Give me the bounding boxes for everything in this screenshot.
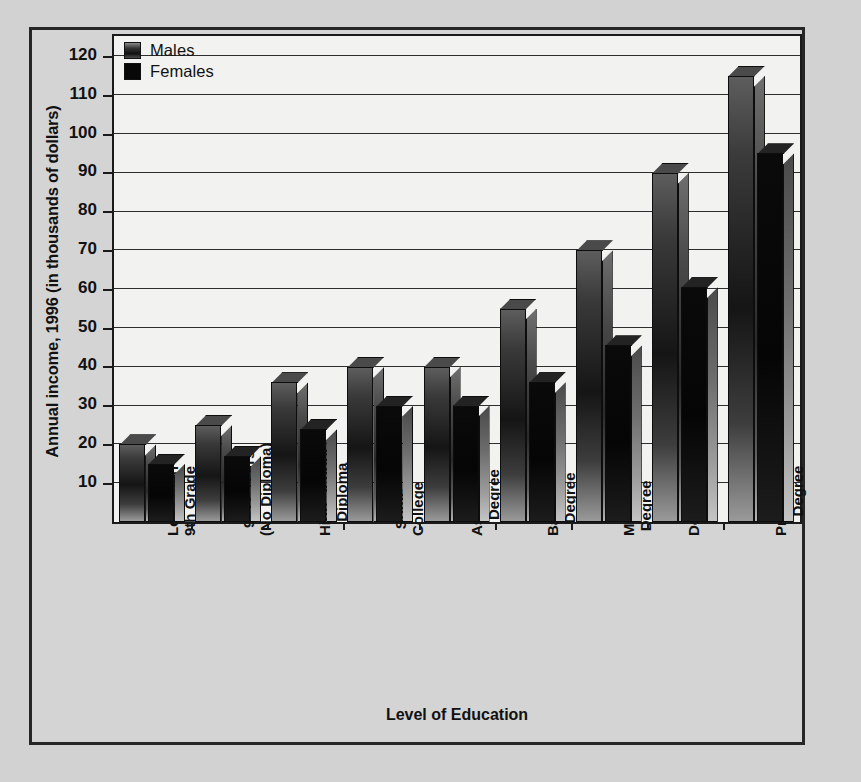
gridline (114, 133, 800, 134)
bar-chart: Annual income, 1996 (in thousands of dol… (0, 0, 861, 782)
x-axis-tick (647, 522, 649, 530)
y-axis-tick-label: 70 (51, 239, 97, 259)
y-axis-tick (103, 134, 112, 136)
females-swatch-icon (124, 63, 141, 80)
bar-males (195, 425, 221, 522)
bar-front-face (376, 406, 402, 522)
y-axis-tick (103, 328, 112, 330)
bar-females (300, 429, 326, 522)
bar-front-face (728, 76, 754, 522)
bar-side-face (707, 287, 718, 522)
legend-label-females: Females (150, 62, 214, 81)
y-axis-tick-label: 20 (51, 433, 97, 453)
y-axis-tick (103, 366, 112, 368)
x-axis-tick (723, 522, 725, 530)
x-axis-title: Level of Education (112, 706, 802, 724)
bar-side-face (631, 345, 642, 522)
bar-front-face (148, 464, 174, 522)
y-axis-tick (103, 444, 112, 446)
gridline (114, 211, 800, 212)
y-axis-tick-label: 120 (51, 45, 97, 65)
bar-females (681, 287, 707, 522)
bar-front-face (271, 382, 297, 522)
y-axis-tick-label: 90 (51, 161, 97, 181)
x-axis-tick (495, 522, 497, 530)
bar-front-face (652, 173, 678, 522)
bar-side-face (783, 153, 794, 522)
bar-front-face (347, 367, 373, 522)
bar-front-face (500, 309, 526, 522)
bar-front-face (757, 153, 783, 522)
bar-males (576, 250, 602, 522)
bar-males (500, 309, 526, 522)
y-axis-tick-label: 60 (51, 278, 97, 298)
gridline (114, 55, 800, 56)
bar-front-face (224, 456, 250, 522)
bar-males (347, 367, 373, 522)
bar-females (376, 406, 402, 522)
bar-males (424, 367, 450, 522)
legend-item-males: Males (124, 40, 214, 61)
bar-side-face (250, 456, 261, 522)
bar-males (119, 444, 145, 522)
bar-front-face (529, 382, 555, 522)
y-axis-tick (103, 95, 112, 97)
gridline (114, 249, 800, 250)
bar-females (224, 456, 250, 522)
x-axis-tick (419, 522, 421, 530)
y-axis-tick-label: 110 (51, 84, 97, 104)
bar-females (605, 345, 631, 522)
y-axis-tick (103, 289, 112, 291)
y-axis-tick-label: 30 (51, 394, 97, 414)
bar-front-face (119, 444, 145, 522)
legend-item-females: Females (124, 61, 214, 82)
bar-males (271, 382, 297, 522)
bar-females (453, 406, 479, 522)
males-swatch-icon (124, 42, 141, 59)
bar-front-face (424, 367, 450, 522)
bar-front-face (195, 425, 221, 522)
plot-inner (114, 36, 800, 522)
x-axis-tick (343, 522, 345, 530)
y-axis-tick (103, 483, 112, 485)
y-axis-tick-label: 80 (51, 200, 97, 220)
y-axis-tick (103, 211, 112, 213)
bar-males (728, 76, 754, 522)
bar-females (529, 382, 555, 522)
bar-side-face (555, 382, 566, 522)
bar-females (757, 153, 783, 522)
gridline (114, 94, 800, 95)
x-axis-tick (191, 522, 193, 530)
x-axis-tick (571, 522, 573, 530)
bar-front-face (576, 250, 602, 522)
y-axis-tick-label: 100 (51, 123, 97, 143)
y-axis-tick-label: 10 (51, 472, 97, 492)
gridline (114, 172, 800, 173)
bar-males (652, 173, 678, 522)
y-axis-tick (103, 250, 112, 252)
y-axis-tick-label: 50 (51, 317, 97, 337)
legend: Males Females (124, 40, 214, 82)
x-axis-tick (267, 522, 269, 530)
y-axis-tick-label: 40 (51, 355, 97, 375)
bar-front-face (681, 287, 707, 522)
y-axis-tick (103, 172, 112, 174)
bar-front-face (453, 406, 479, 522)
bar-front-face (300, 429, 326, 522)
bar-side-face (479, 406, 490, 522)
legend-label-males: Males (150, 41, 195, 60)
bar-front-face (605, 345, 631, 522)
bar-side-face (326, 429, 337, 522)
bar-females (148, 464, 174, 522)
plot-area (112, 34, 802, 524)
y-axis-tick (103, 405, 112, 407)
bar-side-face (402, 406, 413, 522)
y-axis-tick (103, 56, 112, 58)
